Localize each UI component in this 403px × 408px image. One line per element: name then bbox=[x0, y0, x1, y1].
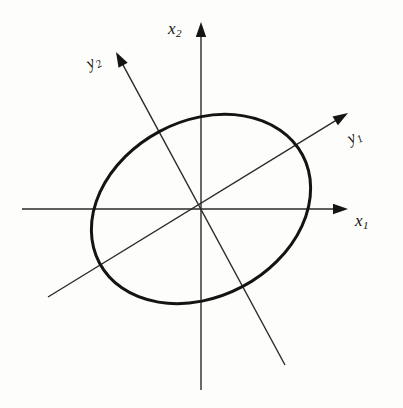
axis-y1-arrowhead bbox=[332, 113, 348, 125]
axis-y2-arrowhead bbox=[116, 52, 128, 68]
axis-label-x2-sub: 2 bbox=[176, 27, 182, 39]
axis-label-x1: x1 bbox=[355, 212, 368, 229]
axis-x1-arrowhead bbox=[333, 204, 348, 214]
ellipse-principal-axes-figure: x2 x1 y1 y2 bbox=[0, 0, 403, 408]
axis-x2-arrowhead bbox=[196, 22, 206, 37]
axis-y2-line bbox=[121, 62, 285, 365]
axis-label-x1-base: x bbox=[355, 211, 363, 230]
axis-label-x2: x2 bbox=[168, 20, 181, 37]
axis-label-x2-base: x bbox=[168, 19, 176, 38]
diagram-canvas bbox=[0, 0, 403, 408]
axis-label-x1-sub: 1 bbox=[363, 219, 369, 231]
